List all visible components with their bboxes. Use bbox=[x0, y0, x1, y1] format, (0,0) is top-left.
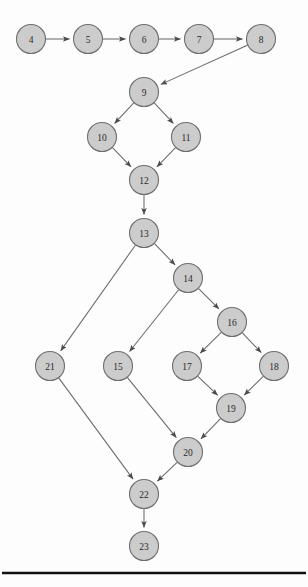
graph-edge bbox=[130, 290, 179, 352]
node-label: 6 bbox=[142, 35, 147, 45]
node-label: 23 bbox=[139, 542, 149, 552]
graph-node[interactable]: 12 bbox=[130, 166, 159, 195]
graph-node[interactable]: 14 bbox=[174, 264, 203, 293]
node-label: 22 bbox=[139, 490, 149, 500]
node-label: 17 bbox=[182, 362, 192, 372]
nodes-layer: 4567891011121314162115171819202223 bbox=[17, 25, 289, 561]
graph-node[interactable]: 4 bbox=[17, 25, 46, 54]
node-label: 12 bbox=[139, 176, 149, 186]
graph-edge bbox=[154, 103, 173, 124]
graph-edge bbox=[199, 289, 219, 309]
graph-edge bbox=[242, 333, 261, 353]
graph-edge bbox=[115, 103, 134, 124]
graph-node[interactable]: 5 bbox=[74, 25, 103, 54]
graph-edge bbox=[198, 376, 218, 395]
graph-edge bbox=[244, 376, 263, 395]
node-label: 11 bbox=[181, 133, 190, 143]
graph-edge bbox=[201, 419, 221, 439]
node-label: 21 bbox=[45, 362, 55, 372]
node-label: 18 bbox=[269, 362, 279, 372]
node-label: 9 bbox=[142, 88, 147, 98]
graph-node[interactable]: 9 bbox=[130, 78, 159, 107]
graph-node[interactable]: 6 bbox=[130, 25, 159, 54]
graph-node[interactable]: 11 bbox=[172, 123, 201, 152]
graph-edge bbox=[112, 148, 131, 167]
graph-node[interactable]: 16 bbox=[218, 308, 247, 337]
node-label: 13 bbox=[139, 229, 149, 239]
graph-edge bbox=[61, 245, 136, 351]
graph-node[interactable]: 18 bbox=[260, 352, 289, 381]
node-label: 20 bbox=[183, 448, 193, 458]
graph-svg: 4567891011121314162115171819202223 bbox=[0, 0, 308, 587]
graph-edge bbox=[157, 462, 177, 481]
node-label: 19 bbox=[226, 404, 236, 414]
node-label: 10 bbox=[97, 133, 107, 143]
node-label: 7 bbox=[197, 35, 202, 45]
node-label: 8 bbox=[259, 35, 264, 45]
diagram-canvas: 4567891011121314162115171819202223 bbox=[0, 0, 308, 587]
graph-node[interactable]: 20 bbox=[174, 438, 203, 467]
node-label: 15 bbox=[113, 362, 123, 372]
graph-edge bbox=[59, 378, 133, 479]
graph-edge bbox=[200, 332, 221, 353]
node-label: 4 bbox=[29, 35, 34, 45]
graph-edge bbox=[154, 244, 175, 265]
graph-node[interactable]: 23 bbox=[130, 532, 159, 561]
node-label: 14 bbox=[183, 274, 193, 284]
graph-node[interactable]: 17 bbox=[173, 352, 202, 381]
graph-node[interactable]: 22 bbox=[130, 480, 159, 509]
graph-edge bbox=[127, 378, 176, 438]
edges-layer bbox=[46, 39, 263, 528]
node-label: 16 bbox=[227, 318, 237, 328]
graph-edge bbox=[157, 148, 176, 167]
graph-node[interactable]: 7 bbox=[185, 25, 214, 54]
graph-node[interactable]: 21 bbox=[36, 352, 65, 381]
graph-node[interactable]: 19 bbox=[217, 394, 246, 423]
graph-node[interactable]: 15 bbox=[104, 352, 133, 381]
graph-node[interactable]: 8 bbox=[247, 25, 276, 54]
graph-node[interactable]: 13 bbox=[130, 219, 159, 248]
node-label: 5 bbox=[86, 35, 91, 45]
graph-node[interactable]: 10 bbox=[88, 123, 117, 152]
